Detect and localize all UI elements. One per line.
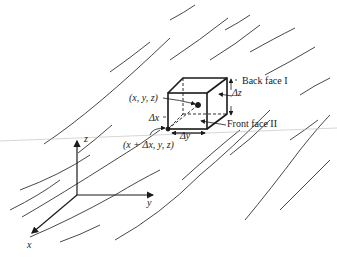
back-face-label: Back face I [242, 76, 288, 86]
z-axis-label: z [84, 134, 88, 144]
control-volume-cube [166, 78, 227, 131]
delta-x-label: Δx [149, 113, 159, 123]
point-x-plus-dx-label: (x + Δx, y, z) [123, 140, 174, 150]
diagram-canvas: (x, y, z) Δx (x + Δx, y, z) Δy Δz Back f… [0, 0, 337, 260]
point-xyz-label: (x, y, z) [129, 93, 158, 103]
diagram-graphics [0, 0, 337, 260]
y-axis-label: y [147, 198, 151, 208]
x-axis-label: x [27, 240, 31, 250]
front-face-label: Front face II [227, 119, 277, 129]
delta-y-label: Δy [180, 131, 190, 141]
delta-z-label: Δz [232, 88, 242, 98]
